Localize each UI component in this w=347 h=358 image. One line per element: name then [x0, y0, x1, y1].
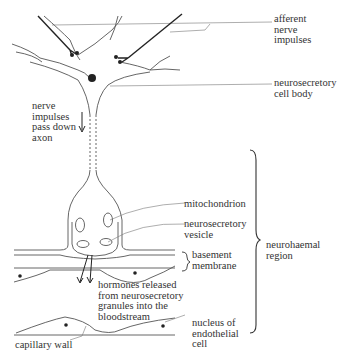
afferent-axon-left: [38, 16, 70, 50]
label-vesicle: neurosecretory vesicle: [184, 219, 246, 240]
label-neurohaemal-region: neurohaemal region: [266, 240, 320, 261]
label-nerve-impulses: nerve impulses pass down axon: [32, 101, 76, 143]
label-cell-body: neurosecretory cell body: [274, 78, 336, 99]
dendrite-right: [120, 62, 180, 70]
nucleus: [88, 74, 96, 82]
label-afferent: afferent nerve impulses: [274, 14, 311, 46]
label-mitochondrion: mitochondrion: [184, 199, 246, 210]
terminal-right: [96, 170, 175, 250]
mitochondrion-1: [76, 218, 85, 232]
soma-right: [96, 72, 150, 115]
vesicle-cluster-2: [100, 239, 112, 246]
terminal-inner: [72, 222, 118, 256]
vesicle-cluster-1: [77, 241, 89, 248]
label-basement-membrane: basement membrane: [192, 250, 236, 271]
hormone-arrow-1: [77, 255, 88, 283]
mitochondrion-2: [104, 213, 113, 227]
dendrite-right-branch: [150, 56, 170, 70]
neurosecretory-diagram: afferent nerve impulses neurosecretory c…: [0, 0, 347, 358]
dendrite-upper-mid: [78, 16, 122, 55]
label-hormones: hormones released from neurosecretory gr…: [98, 280, 183, 322]
afferent-axon-right: [128, 14, 182, 58]
label-capillary-wall: capillary wall: [15, 340, 72, 351]
axon-arrow: [79, 112, 85, 132]
label-nucleus: nucleus of endothelial cell: [192, 318, 239, 350]
terminal-left: [14, 170, 90, 250]
dendrite-left: [12, 44, 90, 78]
neurohaemal-bracket: [250, 150, 260, 333]
basement-bracket: [182, 252, 190, 271]
